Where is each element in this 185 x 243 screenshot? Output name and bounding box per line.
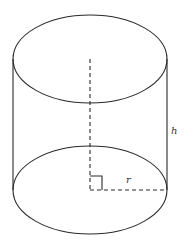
right-angle-marker — [90, 176, 102, 190]
cylinder-diagram: h r — [0, 0, 185, 243]
radius-label: r — [126, 174, 132, 185]
height-label: h — [171, 125, 177, 136]
